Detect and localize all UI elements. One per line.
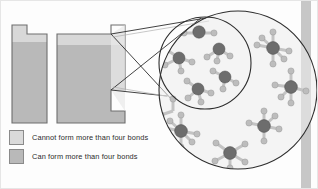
legend-label-cannot-form: Cannot form more than four bonds bbox=[32, 134, 148, 141]
legend-label-can-form: Can form more than four bonds bbox=[32, 153, 138, 160]
legend-swatch-can-form bbox=[9, 149, 24, 164]
figure-container: Cannot form more than four bonds Can for… bbox=[0, 0, 318, 189]
callout-wedge-fill bbox=[111, 25, 125, 111]
legend-swatch-cannot-form bbox=[9, 130, 24, 145]
legend-item-can-form: Can form more than four bonds bbox=[9, 149, 148, 164]
legend: Cannot form more than four bonds Can for… bbox=[9, 130, 148, 164]
legend-item-cannot-form: Cannot form more than four bonds bbox=[9, 130, 148, 145]
